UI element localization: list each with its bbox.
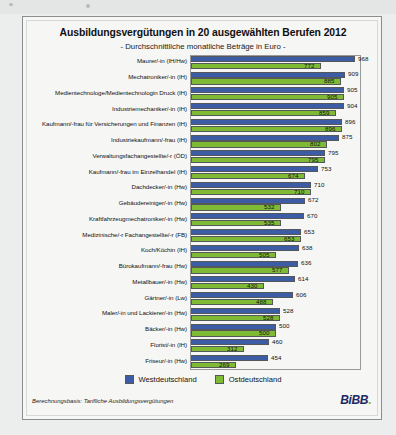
bar-pair: 896896 [191,118,375,133]
bar-value-east: 802 [310,141,320,147]
bar-pair: 500500 [191,323,375,338]
category-label: Industriekaufmann/-frau (IH) [31,136,187,143]
chart-subtitle: - Durchschnittliche monatliche Beträge i… [23,42,383,51]
bar-value-east: 577 [272,267,282,273]
bar-value-east: 710 [294,189,304,195]
chart-card: Ausbildungsvergütungen in 20 ausgewählte… [22,16,382,420]
bar-pair: 875802 [191,134,375,149]
category-label: Kraftfahrzeugmechatroniker/-in (Hw) [31,215,187,222]
bar-pair: 460312 [191,339,375,354]
bar-value-east: 674 [288,173,298,179]
bar-value-east: 535 [264,220,274,226]
bar-value-west: 904 [347,103,357,109]
bar-west [191,87,344,93]
category-label: Verwaltungsfachangestellte/-r (ÖD) [31,152,187,159]
category-label: Florist/-in (IH) [31,341,187,348]
bar-row: Medientechnologe/Medientechnologin Druck… [31,87,375,102]
bar-east [191,63,321,69]
category-label: Dachdecker/-in (Hw) [31,183,187,190]
bar-west [191,292,293,298]
bar-west [191,150,325,156]
chart-legend: Westdeutschland Ostdeutschland [23,375,383,384]
bar-value-east: 532 [264,204,274,210]
legend-label-west: Westdeutschland [139,375,197,384]
bar-value-west: 528 [283,308,293,314]
bar-row: Gebäudereiniger/-in (Hw)672532 [31,197,375,212]
bar-value-east: 896 [325,126,335,132]
bar-row: Dachdecker/-in (Hw)710710 [31,181,375,196]
bar-row: Mechatroniker/-in (IH)909885 [31,71,375,86]
bar-row: Maurer/-in (IH/Hw)968772 [31,55,375,70]
bar-east [191,126,342,132]
bar-row: Maler/-in und Lackierer/-in (Hw)528528 [31,307,375,322]
bar-east [191,157,325,163]
bar-value-west: 710 [314,182,324,188]
bar-pair: 454269 [191,354,375,369]
bibb-logo-text: BiBB [340,393,368,407]
bar-value-west: 670 [307,213,317,219]
bar-pair: 528528 [191,307,375,322]
bar-value-east: 772 [304,63,314,69]
category-label: Medientechnologe/Medientechnologin Druck… [31,89,187,96]
bar-value-west: 614 [298,276,308,282]
bar-value-east: 859 [319,110,329,116]
legend-item-west: Westdeutschland [125,375,197,384]
bar-pair: 909885 [191,71,375,86]
bar-pair: 653653 [191,228,375,243]
bar-west [191,198,305,204]
bar-west [191,213,304,219]
bar-west [191,245,299,251]
bibb-logo-dot: . [368,393,371,407]
chart-footnote: Berechnungsbasis: Tarifliche Ausbildungs… [32,398,173,404]
category-label: Metallbauer/-in (Hw) [31,278,187,285]
bar-pair: 904859 [191,102,375,117]
bar-value-east: 528 [263,315,273,321]
bar-value-west: 500 [279,323,289,329]
bar-east [191,189,311,195]
bar-west [191,56,355,62]
scan-artifact-band [0,0,396,14]
bar-east [191,110,336,116]
legend-swatch-east-icon [215,375,224,384]
legend-swatch-west-icon [125,375,134,384]
bar-value-west: 875 [342,134,352,140]
bar-row: Gärtner/-in (Lw)606488 [31,291,375,306]
chart-title: Ausbildungsvergütungen in 20 ausgewählte… [23,27,383,38]
scan-speck [86,4,90,8]
bar-value-west: 460 [272,339,282,345]
page-root: Grafik: Bundesinstitut für Berufsbildung… [0,0,396,435]
bar-row: Kraftfahrzeugmechatroniker/-in (Hw)67053… [31,213,375,228]
bar-value-west: 454 [271,355,281,361]
bar-pair: 636577 [191,260,375,275]
bar-value-east: 653 [284,236,294,242]
bar-pair: 670535 [191,213,375,228]
category-label: Bürokaufmann/-frau (Hw) [31,262,187,269]
bar-value-east: 885 [324,78,334,84]
bar-value-east: 500 [259,330,269,336]
category-label: Koch/Köchin (IH) [31,246,187,253]
bar-row: Medizinische/-r Fachangestellte/-r (FB)6… [31,228,375,243]
legend-item-east: Ostdeutschland [215,375,282,384]
category-label: Gebäudereiniger/-in (Hw) [31,199,187,206]
bar-value-west: 653 [304,229,314,235]
bar-pair: 614430 [191,276,375,291]
bar-row: Friseur/-in (Hw)454269 [31,354,375,369]
bar-value-east: 488 [256,299,266,305]
bar-west [191,276,295,282]
bar-west [191,182,311,188]
bar-east [191,94,344,100]
bar-east [191,78,341,84]
scan-speck [9,3,13,6]
bar-row: Industriekaufmann/-frau (IH)875802 [31,134,375,149]
bar-value-west: 909 [348,71,358,77]
bar-pair: 606488 [191,291,375,306]
bar-value-east: 312 [227,346,237,352]
bar-pair: 905905 [191,87,375,102]
bar-value-east: 795 [308,157,318,163]
category-label: Kaufmann/-frau im Einzelhandel (IH) [31,168,187,175]
bar-pair: 753674 [191,165,375,180]
bar-row: Koch/Köchin (IH)638505 [31,244,375,259]
bar-pair: 968772 [191,55,375,70]
bar-west [191,72,345,78]
bar-value-west: 672 [308,197,318,203]
